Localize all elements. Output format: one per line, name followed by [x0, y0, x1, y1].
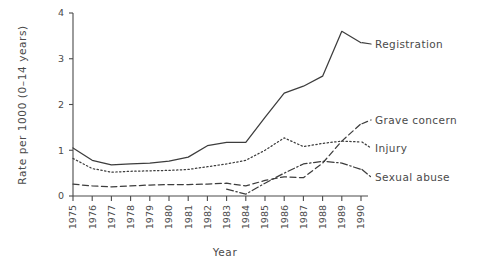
x-tick-label: 1986: [279, 205, 290, 229]
series-line-grave-concern: [73, 124, 361, 187]
chart-canvas: 01234 Rate per 1000 (0–14 years) 1975197…: [0, 0, 483, 275]
series-leader-registration: [362, 43, 371, 44]
series-label-registration: Registration: [375, 38, 443, 50]
x-tick-label: 1988: [317, 205, 328, 229]
series-leader-grave-concern: [362, 120, 371, 124]
data-series-group: [73, 31, 361, 194]
y-axis: 01234 Rate per 1000 (0–14 years): [16, 7, 73, 201]
x-tick-label: 1978: [125, 205, 136, 229]
x-tick-label: 1987: [298, 205, 309, 229]
y-tick-label: 2: [58, 99, 64, 110]
y-tick-label: 1: [58, 145, 64, 156]
series-leader-injury: [362, 142, 371, 148]
x-tick-label: 1980: [163, 205, 174, 229]
x-axis-tick-labels: 1975197619771978197919801981198219831984…: [67, 205, 366, 229]
x-tick-label: 1990: [355, 205, 366, 229]
y-axis-tick-labels: 01234: [58, 7, 64, 201]
x-tick-label: 1979: [144, 205, 155, 229]
x-tick-label: 1982: [202, 205, 213, 229]
x-tick-label: 1977: [106, 205, 117, 229]
x-tick-label: 1989: [336, 205, 347, 229]
series-label-grave-concern: Grave concern: [375, 114, 457, 126]
y-tick-label: 3: [58, 53, 64, 64]
series-label-group: RegistrationGrave concernInjurySexual ab…: [362, 38, 457, 183]
x-tick-label: 1983: [221, 205, 232, 229]
x-tick-label: 1976: [87, 205, 98, 229]
x-tick-label: 1984: [240, 205, 251, 229]
series-leader-sexual-abuse: [362, 169, 371, 177]
y-tick-label: 4: [58, 7, 64, 18]
line-chart-figure: 01234 Rate per 1000 (0–14 years) 1975197…: [0, 0, 483, 275]
x-tick-label: 1975: [67, 205, 78, 229]
y-tick-label: 0: [58, 190, 64, 201]
y-axis-ticks: [69, 13, 73, 196]
x-axis: 1975197619771978197919801981198219831984…: [67, 196, 368, 258]
y-axis-title: Rate per 1000 (0–14 years): [16, 25, 28, 185]
series-line-registration: [73, 31, 361, 165]
x-axis-ticks: [73, 196, 361, 201]
series-label-sexual-abuse: Sexual abuse: [375, 171, 450, 183]
series-label-injury: Injury: [375, 142, 407, 154]
x-tick-label: 1985: [259, 205, 270, 229]
x-tick-label: 1981: [183, 205, 194, 229]
x-axis-title: Year: [212, 246, 238, 258]
